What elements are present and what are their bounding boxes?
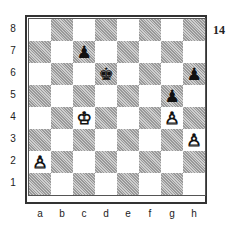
square-b7 — [51, 41, 73, 63]
square-c3 — [73, 129, 95, 151]
black-pawn-icon: ♟ — [164, 88, 179, 105]
square-d7 — [95, 41, 117, 63]
square-e8 — [117, 19, 139, 41]
square-g8 — [161, 19, 183, 41]
square-a2: ♙ — [29, 151, 51, 173]
square-d1 — [95, 173, 117, 195]
rank-label: 4 — [8, 111, 18, 122]
square-f8 — [139, 19, 161, 41]
square-e5 — [117, 85, 139, 107]
square-f1 — [139, 173, 161, 195]
square-a5 — [29, 85, 51, 107]
black-king-icon: ♚ — [98, 66, 113, 83]
square-c8 — [73, 19, 95, 41]
diagram-number: 14 — [213, 23, 225, 38]
square-c4: ♔ — [73, 107, 95, 129]
square-a8 — [29, 19, 51, 41]
square-c1 — [73, 173, 95, 195]
white-pawn-icon: ♙ — [186, 132, 201, 149]
square-g7 — [161, 41, 183, 63]
square-g2 — [161, 151, 183, 173]
square-d4 — [95, 107, 117, 129]
square-d5 — [95, 85, 117, 107]
square-d3 — [95, 129, 117, 151]
square-f3 — [139, 129, 161, 151]
square-d2 — [95, 151, 117, 173]
square-g5: ♟ — [161, 85, 183, 107]
square-g4: ♙ — [161, 107, 183, 129]
white-pawn-icon: ♙ — [32, 154, 47, 171]
square-e7 — [117, 41, 139, 63]
square-f5 — [139, 85, 161, 107]
square-a3 — [29, 129, 51, 151]
file-label: b — [51, 208, 73, 219]
chess-board: ♟♚♟♟♔♙♙♙ — [28, 18, 206, 196]
square-a7 — [29, 41, 51, 63]
square-g1 — [161, 173, 183, 195]
rank-label: 5 — [8, 89, 18, 100]
square-c6 — [73, 63, 95, 85]
square-e3 — [117, 129, 139, 151]
square-b3 — [51, 129, 73, 151]
square-a4 — [29, 107, 51, 129]
square-g6 — [161, 63, 183, 85]
square-h7 — [183, 41, 205, 63]
square-b4 — [51, 107, 73, 129]
square-h3: ♙ — [183, 129, 205, 151]
file-label: f — [139, 208, 161, 219]
square-e6 — [117, 63, 139, 85]
square-a6 — [29, 63, 51, 85]
square-h2 — [183, 151, 205, 173]
square-c2 — [73, 151, 95, 173]
rank-label: 6 — [8, 67, 18, 78]
square-f4 — [139, 107, 161, 129]
square-h1 — [183, 173, 205, 195]
square-e4 — [117, 107, 139, 129]
square-g3 — [161, 129, 183, 151]
square-b1 — [51, 173, 73, 195]
square-a1 — [29, 173, 51, 195]
rank-label: 1 — [8, 177, 18, 188]
square-b8 — [51, 19, 73, 41]
black-pawn-icon: ♟ — [186, 66, 201, 83]
square-d8 — [95, 19, 117, 41]
square-h6: ♟ — [183, 63, 205, 85]
file-label: g — [161, 208, 183, 219]
file-label: h — [183, 208, 205, 219]
rank-label: 3 — [8, 133, 18, 144]
square-e2 — [117, 151, 139, 173]
square-f6 — [139, 63, 161, 85]
rank-label: 8 — [8, 23, 18, 34]
file-label: e — [117, 208, 139, 219]
square-b5 — [51, 85, 73, 107]
square-e1 — [117, 173, 139, 195]
file-label: a — [29, 208, 51, 219]
file-label: d — [95, 208, 117, 219]
square-f2 — [139, 151, 161, 173]
rank-label: 2 — [8, 155, 18, 166]
square-c5 — [73, 85, 95, 107]
square-h8 — [183, 19, 205, 41]
square-h4 — [183, 107, 205, 129]
square-b2 — [51, 151, 73, 173]
white-king-icon: ♔ — [76, 110, 91, 127]
square-h5 — [183, 85, 205, 107]
file-label: c — [73, 208, 95, 219]
square-d6: ♚ — [95, 63, 117, 85]
square-b6 — [51, 63, 73, 85]
rank-label: 7 — [8, 45, 18, 56]
square-c7: ♟ — [73, 41, 95, 63]
white-pawn-icon: ♙ — [164, 110, 179, 127]
black-pawn-icon: ♟ — [76, 44, 91, 61]
square-f7 — [139, 41, 161, 63]
